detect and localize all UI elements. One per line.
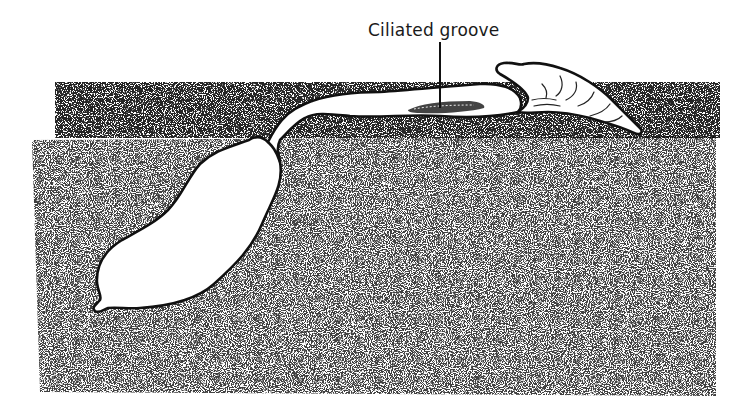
diagram-canvas: Ciliated groove	[0, 0, 730, 416]
label-ciliated-groove: Ciliated groove	[368, 20, 500, 40]
burrowing-animal-illustration	[0, 0, 730, 416]
